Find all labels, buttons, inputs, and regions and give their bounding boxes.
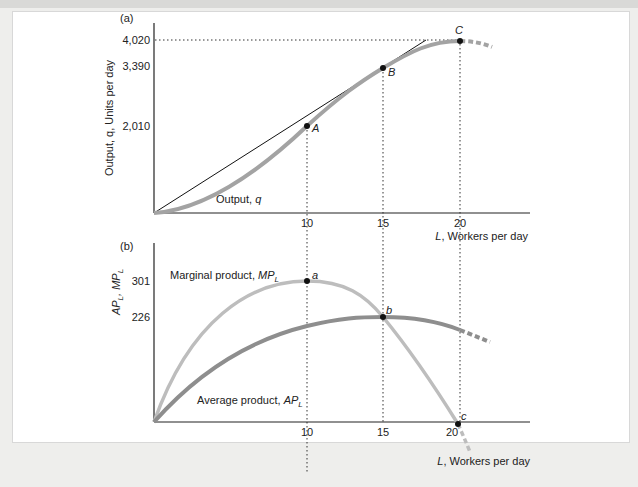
- point-A: [304, 123, 310, 129]
- panel-a-tag: (a): [120, 12, 133, 24]
- label-A: A: [311, 122, 319, 134]
- ap-curve-extension: [460, 330, 490, 342]
- production-chart: (a) Output, q, Units per day 4,020 3,390…: [0, 0, 638, 487]
- ap-curve-label: Average product, APL: [197, 394, 303, 409]
- label-b: b: [386, 304, 392, 316]
- panel-b-tag: (b): [120, 240, 133, 252]
- xtick-10: 10: [301, 217, 313, 229]
- y-axis-label: APL, MPL: [110, 269, 125, 316]
- ytick-2010: 2,010: [122, 120, 150, 132]
- x-axis-label: L, Workers per day: [437, 455, 530, 467]
- mp-curve-label: Marginal product, MPL: [170, 269, 279, 284]
- xtick-20: 20: [454, 217, 466, 229]
- point-a: [304, 278, 310, 284]
- output-curve-label: Output, q: [216, 193, 262, 205]
- panel-a: (a) Output, q, Units per day 4,020 3,390…: [103, 12, 530, 474]
- xtick-15: 15: [377, 217, 389, 229]
- panel-b: (b) APL, MPL 301 226 a b c Marginal prod…: [110, 240, 530, 467]
- xtick-15: 15: [377, 426, 389, 438]
- label-c: c: [461, 410, 467, 422]
- ytick-226: 226: [132, 311, 150, 323]
- point-C: [457, 38, 463, 44]
- ytick-3390: 3,390: [122, 60, 150, 72]
- point-B: [380, 65, 386, 71]
- label-a: a: [312, 269, 318, 281]
- x-axis-label: L, Workers per day: [435, 230, 528, 242]
- y-axis-label: Output, q, Units per day: [103, 59, 115, 176]
- output-curve-extension: [460, 41, 492, 47]
- label-B: B: [388, 66, 395, 78]
- mp-curve-extension: [458, 424, 470, 452]
- label-C: C: [455, 24, 463, 36]
- xtick-10: 10: [301, 426, 313, 438]
- ytick-301: 301: [132, 275, 150, 287]
- ytick-4020: 4,020: [122, 34, 150, 46]
- xtick-20: 20: [446, 426, 458, 438]
